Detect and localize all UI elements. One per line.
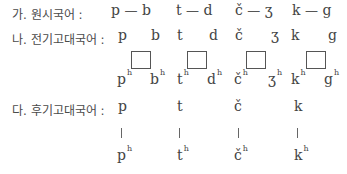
aspirated-phoneme: th <box>177 147 189 163</box>
blank-box-3 <box>246 51 266 69</box>
aspirated-phoneme: th <box>177 71 189 87</box>
proto-pair-4: k — g <box>292 2 331 18</box>
aspirated-phoneme: ph <box>117 147 132 163</box>
proto-pair-3: č — ʒ <box>235 2 273 18</box>
phoneme: k <box>294 98 302 114</box>
phoneme: t <box>177 98 183 114</box>
phoneme: č <box>234 98 242 114</box>
connector-line <box>121 128 122 138</box>
phoneme: k <box>291 27 299 43</box>
phoneme: p <box>118 98 127 114</box>
phoneme: t <box>177 27 183 43</box>
phoneme: p <box>118 27 127 43</box>
blank-box-2 <box>187 51 207 69</box>
proto-korean-label: 가. 원시국어 : <box>12 5 83 22</box>
phoneme: p <box>111 2 120 18</box>
proto-pair-2: t — d <box>176 2 213 18</box>
dash: — <box>124 3 137 18</box>
phoneme: g <box>328 27 337 43</box>
dash: — <box>186 3 199 18</box>
blank-box-4 <box>306 51 326 69</box>
connector-line <box>297 128 298 138</box>
early-old-korean-label: 나. 전기고대국어 : <box>12 30 105 47</box>
phoneme: ʒ <box>265 2 273 18</box>
aspirated-phoneme: kh <box>294 147 309 163</box>
phoneme: b <box>142 2 151 18</box>
phoneme: č <box>235 27 243 43</box>
phoneme: g <box>322 2 331 18</box>
proto-pair-1: p — b <box>111 2 151 18</box>
aspirated-phoneme: gh <box>324 71 339 87</box>
aspirated-phoneme: ʒh <box>268 71 282 87</box>
aspirated-phoneme: dh <box>207 71 222 87</box>
phoneme: b <box>151 27 160 43</box>
phoneme: k <box>292 2 300 18</box>
phoneme: ʒ <box>271 27 279 43</box>
late-old-korean-label: 다. 후기고대국어 : <box>12 101 105 118</box>
aspirated-phoneme: ph <box>117 71 132 87</box>
aspirated-phoneme: kh <box>291 71 306 87</box>
aspirated-phoneme: bh <box>150 71 165 87</box>
connector-line <box>238 128 239 138</box>
dash: — <box>305 3 318 18</box>
dash: — <box>247 3 260 18</box>
blank-box-1 <box>131 51 151 69</box>
aspirated-phoneme: čh <box>234 147 248 163</box>
aspirated-phoneme: čh <box>234 71 248 87</box>
phoneme: t <box>176 2 182 18</box>
phoneme: d <box>204 2 213 18</box>
connector-line <box>179 128 180 138</box>
phoneme: č <box>235 2 243 18</box>
phoneme: d <box>209 27 218 43</box>
